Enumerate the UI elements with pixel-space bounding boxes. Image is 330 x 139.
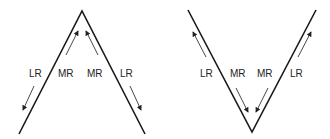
label-right-outer: LR xyxy=(120,68,133,79)
label-left-inner: MR xyxy=(230,68,246,79)
label-right-inner: MR xyxy=(257,68,273,79)
label-left-outer: LR xyxy=(29,68,42,79)
peak-diagram: LR MR MR LR xyxy=(19,11,145,134)
trough-diagram: LR MR MR LR xyxy=(188,10,316,132)
label-right-outer: LR xyxy=(290,68,303,79)
label-left-inner: MR xyxy=(58,68,74,79)
lr-mr-diagram: LR MR MR LR LR MR MR LR xyxy=(0,0,330,139)
arrow-left-outer xyxy=(193,32,206,57)
arrow-right-inner xyxy=(86,31,98,55)
label-right-inner: MR xyxy=(87,68,103,79)
label-left-outer: LR xyxy=(200,68,213,79)
arrow-left-inner xyxy=(236,88,248,112)
arrow-left-inner xyxy=(66,31,78,55)
arrow-right-outer xyxy=(298,32,311,57)
arrow-right-inner xyxy=(256,88,268,112)
